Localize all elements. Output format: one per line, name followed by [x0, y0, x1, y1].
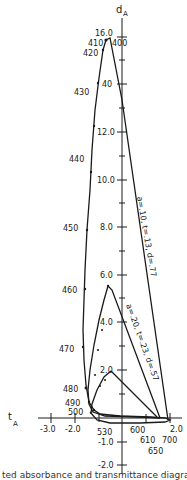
wl-470: 470 — [59, 345, 74, 354]
wl-440: 440 — [69, 155, 84, 164]
svg-text:d: d — [116, 4, 122, 15]
chromaticity-loop-chart: 16.0 40 12.0 10.0 8.0 6.0 4.0 2.0 -1.0 -… — [0, 0, 187, 480]
outer-loop-right-line — [106, 38, 168, 420]
annotation-outer: a=.10, t=.13, d=.77 — [135, 196, 158, 278]
y-tick-8: 8.0 — [100, 223, 113, 232]
outer-loop-curve — [83, 40, 170, 423]
wl-430: 430 — [74, 88, 89, 97]
wl-700: 700 — [162, 436, 177, 445]
y-tick-12: 12.0 — [97, 128, 115, 137]
y-tick-16: 16.0 — [95, 29, 113, 38]
y-tick-minus2: -2.0 — [98, 461, 114, 470]
y-tick-10: 10.0 — [97, 176, 115, 185]
y-tick-14: 40 — [102, 80, 112, 89]
svg-text:A: A — [123, 10, 128, 18]
wl-420: 420 — [83, 49, 98, 58]
wl-400: 400 — [112, 39, 127, 48]
y-tick-minus1: -1.0 — [98, 438, 114, 447]
x-axis-title: t A — [8, 411, 18, 428]
wl-410: 410 — [88, 39, 103, 48]
wl-650: 650 — [148, 447, 163, 456]
y-tick-4: 4.0 — [100, 318, 113, 327]
y-tick-6: 6.0 — [100, 271, 113, 280]
wl-600: 600 — [130, 426, 145, 435]
wl-460: 460 — [62, 286, 77, 295]
wl-490: 490 — [65, 399, 80, 408]
y-tick-2: 2.0 — [100, 366, 113, 375]
wl-610: 610 — [140, 436, 155, 445]
x-tick-minus2: -2.0 — [65, 425, 81, 434]
figure-caption: ted absorbance and transmittance diagram… — [2, 470, 187, 480]
x-tick-2: 2.0 — [170, 425, 183, 434]
wl-530: 530 — [97, 428, 112, 437]
x-tick-minus3: -3.0 — [40, 425, 56, 434]
svg-text:A: A — [13, 420, 18, 428]
wl-500: 500 — [68, 408, 83, 417]
wl-480: 480 — [63, 385, 78, 394]
svg-text:t: t — [8, 411, 12, 422]
wl-450: 450 — [63, 224, 78, 233]
y-axis-title: d A — [116, 4, 128, 18]
